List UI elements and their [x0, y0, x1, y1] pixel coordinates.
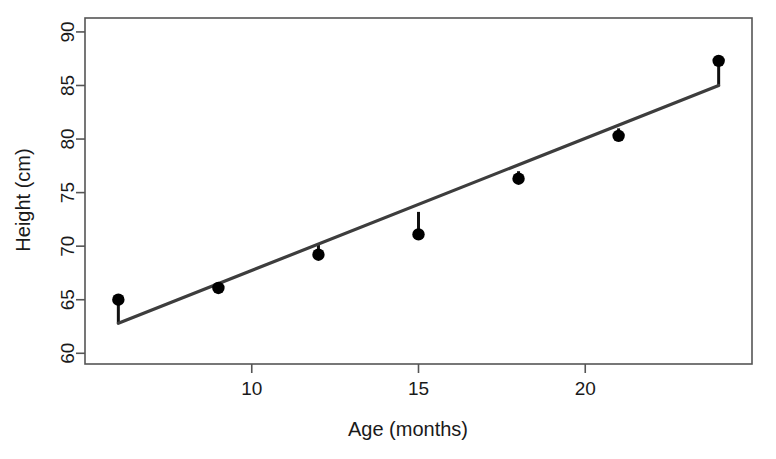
y-tick-label: 80 — [58, 128, 79, 149]
data-point-marker — [512, 172, 524, 184]
y-tick-label: 75 — [58, 182, 79, 203]
plot-canvas: 60657075808590 101520 Age (months) Heigh… — [0, 0, 776, 459]
x-tick-label: 15 — [408, 378, 429, 399]
regression-scatter-figure: 60657075808590 101520 Age (months) Heigh… — [0, 0, 776, 459]
data-point-marker — [412, 228, 424, 240]
data-point-marker — [612, 130, 624, 142]
data-point-marker — [112, 294, 124, 306]
y-tick-label: 70 — [58, 236, 79, 257]
x-tick-label: 10 — [241, 378, 262, 399]
y-axis-title: Height (cm) — [12, 148, 34, 251]
figure-background — [0, 0, 776, 459]
x-tick-label: 20 — [575, 378, 596, 399]
data-point-marker — [312, 249, 324, 261]
y-tick-label: 65 — [58, 289, 79, 310]
y-tick-label: 85 — [58, 75, 79, 96]
y-tick-label: 90 — [58, 21, 79, 42]
x-axis-title: Age (months) — [348, 418, 468, 440]
y-tick-label: 60 — [58, 343, 79, 364]
data-point-marker — [212, 282, 224, 294]
data-point-marker — [712, 55, 724, 67]
